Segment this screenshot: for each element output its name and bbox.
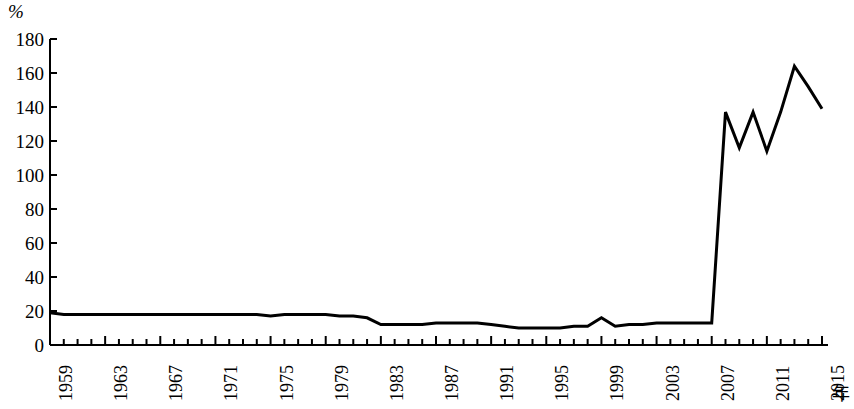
- y-axis-unit-label: %: [8, 2, 24, 22]
- y-axis-tick-label: 0: [0, 336, 44, 355]
- axis-lines: [50, 39, 828, 345]
- y-axis-tick-label: 40: [0, 268, 44, 287]
- x-axis-ticks: [50, 336, 822, 345]
- x-axis-tick-label: 1999: [608, 365, 626, 401]
- x-axis-tick-label: 1959: [57, 365, 75, 401]
- x-axis-tick-label: 1995: [553, 365, 571, 401]
- chart-plot-area: [0, 0, 854, 409]
- x-axis-tick-label: 2003: [664, 365, 682, 401]
- y-axis-ticks: [50, 39, 57, 311]
- y-axis-tick-label: 120: [0, 132, 44, 151]
- y-axis-tick-label: 20: [0, 302, 44, 321]
- y-axis-tick-label: 80: [0, 200, 44, 219]
- data-series-line: [50, 66, 822, 328]
- x-axis-tick-label: 1979: [333, 365, 351, 401]
- x-axis-tick-label: 2011: [774, 366, 792, 401]
- y-axis-tick-label: 180: [0, 30, 44, 49]
- y-axis-tick-label: 160: [0, 64, 44, 83]
- x-axis-tick-label: 2007: [719, 365, 737, 401]
- y-axis-tick-label: 60: [0, 234, 44, 253]
- x-axis-tick-label: 1963: [112, 365, 130, 401]
- x-axis-tick-label: 1983: [388, 365, 406, 401]
- x-axis-tick-label: 1971: [222, 365, 240, 401]
- y-axis-tick-label: 100: [0, 166, 44, 185]
- x-axis-tick-label: 1967: [167, 365, 185, 401]
- chart-container: % 020406080100120140160180 1959196319671…: [0, 0, 854, 409]
- x-axis-tick-label: 1987: [443, 365, 461, 401]
- y-axis-tick-label: 140: [0, 98, 44, 117]
- x-axis-unit-label: 年: [832, 385, 850, 403]
- x-axis-tick-label: 1991: [498, 365, 516, 401]
- x-axis-tick-label: 1975: [278, 365, 296, 401]
